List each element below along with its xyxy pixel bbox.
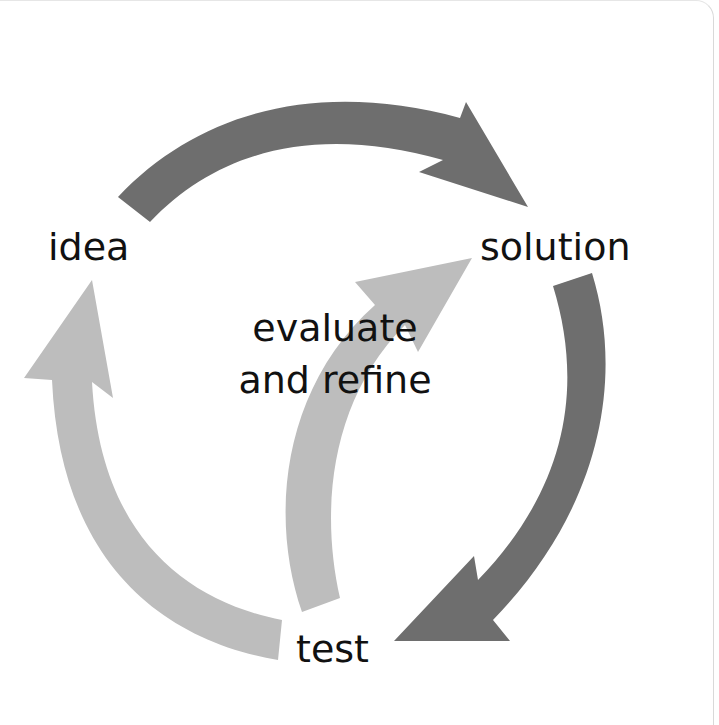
center-label-line1: evaluate [230,302,440,354]
node-label-solution: solution [480,228,630,266]
node-label-idea: idea [48,228,129,266]
arrow-idea-to-solution [118,102,528,222]
center-label-line2: and refine [230,354,440,406]
center-label: evaluate and refine [230,302,440,406]
node-label-test: test [296,630,369,668]
